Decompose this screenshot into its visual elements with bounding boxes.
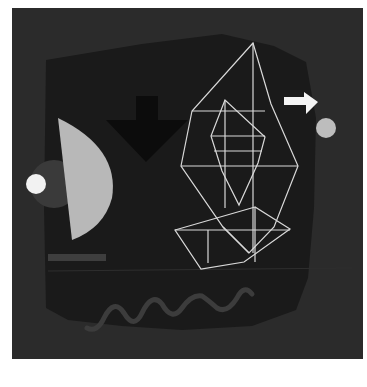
painting-canvas	[12, 8, 363, 359]
painting	[12, 8, 363, 359]
